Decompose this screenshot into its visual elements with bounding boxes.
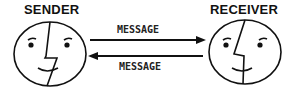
receiver-face-icon bbox=[209, 20, 281, 84]
return-arrow-icon bbox=[88, 52, 203, 60]
forward-arrow-icon bbox=[90, 36, 206, 44]
diagram-canvas bbox=[0, 0, 292, 95]
sender-face-icon bbox=[14, 22, 86, 86]
